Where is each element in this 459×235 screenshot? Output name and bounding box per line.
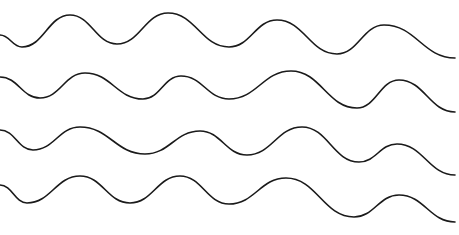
wave-line-4	[0, 176, 455, 222]
wavy-lines-drawing	[0, 0, 459, 235]
wave-line-1	[0, 13, 455, 58]
wave-line-2	[0, 71, 455, 112]
wave-line-3	[0, 127, 455, 175]
